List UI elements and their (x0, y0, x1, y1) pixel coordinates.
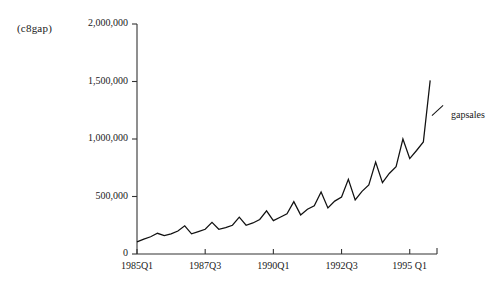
y-tick-label: 0 (56, 247, 128, 258)
line-segment-icon (432, 108, 445, 121)
legend: gapsales (432, 108, 485, 121)
y-tick-label: 2,000,000 (56, 17, 128, 28)
series-line-gapsales (137, 80, 430, 242)
x-tick-marks (137, 249, 410, 254)
y-tick-label: 1,500,000 (56, 75, 128, 86)
chart-figure: (c8gap) 0500,0001,000,0001,500,0002,000,… (0, 0, 504, 293)
y-tick-marks (132, 24, 137, 254)
y-tick-label: 500,000 (56, 190, 128, 201)
axes (137, 24, 437, 254)
legend-label-gapsales: gapsales (451, 109, 485, 120)
x-tick-label: 1995 Q1 (370, 260, 450, 271)
y-tick-label: 1,000,000 (56, 132, 128, 143)
